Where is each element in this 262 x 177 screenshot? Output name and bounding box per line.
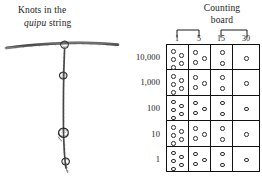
- pebble: [171, 125, 176, 130]
- quipu-caption-line1: Knots in the: [18, 4, 138, 17]
- counting-board-panel: Counting board 1 5 15 30 10,000 1,000 10…: [150, 0, 262, 177]
- pebble: [202, 56, 207, 61]
- pebble: [220, 163, 225, 168]
- pebble: [171, 100, 176, 105]
- quipu-caption: Knots in the quipu string: [18, 4, 138, 29]
- pebble: [244, 56, 249, 61]
- grid-cell-10-1[interactable]: [167, 121, 189, 145]
- pebble: [220, 101, 225, 106]
- pebble: [171, 116, 176, 121]
- pebble: [193, 162, 198, 167]
- pebble: [171, 82, 176, 87]
- grid-row: [167, 121, 259, 146]
- grid-row: [167, 70, 259, 95]
- grid-cell-1-5[interactable]: [189, 147, 211, 171]
- quipu-term: quipu: [24, 18, 46, 28]
- grid-row: [167, 147, 259, 171]
- pebble: [244, 158, 249, 163]
- quipu-caption-line2-rest: string: [46, 18, 71, 28]
- grid-cell-10-30[interactable]: [233, 121, 259, 145]
- pebble: [171, 159, 176, 164]
- row-header-10: 10: [112, 121, 164, 147]
- pebble: [179, 112, 184, 117]
- grid-cell-10000-15[interactable]: [211, 45, 233, 69]
- grid-cell-10000-5[interactable]: [189, 45, 211, 69]
- grid-cell-100-5[interactable]: [189, 96, 211, 120]
- pebble: [171, 167, 176, 172]
- pebble: [193, 85, 198, 90]
- row-header-labels: 10,000 1,000 100 10 1: [112, 44, 164, 172]
- pebble: [193, 75, 198, 80]
- grid-cell-10000-1[interactable]: [167, 45, 189, 69]
- quipu-pendant-string: [63, 48, 68, 168]
- pebble: [171, 74, 176, 79]
- row-header-100: 100: [112, 95, 164, 121]
- pebble: [179, 53, 184, 58]
- quipu-caption-line2: quipu string: [18, 17, 138, 30]
- pebble: [202, 107, 207, 112]
- pebble: [179, 163, 184, 168]
- pebble: [193, 136, 198, 141]
- grid-row: [167, 96, 259, 121]
- grid-cell-1000-15[interactable]: [211, 70, 233, 94]
- pebble: [244, 107, 249, 112]
- pebble: [193, 50, 198, 55]
- pebble: [193, 111, 198, 116]
- pebble: [179, 155, 184, 160]
- pebble: [171, 49, 176, 54]
- counting-board-title-line2: board: [186, 14, 258, 26]
- pebble: [171, 141, 176, 146]
- quipu-counting-board-figure: Knots in the quipu string: [0, 0, 262, 177]
- pebble: [220, 152, 225, 157]
- grid-cell-1-1[interactable]: [167, 147, 189, 171]
- pebble: [220, 112, 225, 117]
- pebble: [171, 108, 176, 113]
- pebble: [220, 137, 225, 142]
- pebble: [193, 126, 198, 131]
- pebble: [171, 57, 176, 62]
- pebble: [179, 86, 184, 91]
- grid-cell-1-30[interactable]: [233, 147, 259, 171]
- counting-board-grid: [166, 44, 260, 172]
- pebble: [193, 101, 198, 106]
- pebble: [202, 158, 207, 163]
- pebble: [244, 132, 249, 137]
- pebble: [179, 78, 184, 83]
- grid-cell-1000-1[interactable]: [167, 70, 189, 94]
- pebble: [202, 81, 207, 86]
- pebble: [193, 152, 198, 157]
- quipu-string-illustration: [2, 32, 122, 177]
- pebble: [171, 65, 176, 70]
- pebble: [220, 50, 225, 55]
- grid-row: [167, 45, 259, 70]
- pebble: [171, 151, 176, 156]
- pebble: [179, 61, 184, 66]
- pebble: [220, 75, 225, 80]
- pebble: [244, 81, 249, 86]
- row-header-10000: 10,000: [112, 44, 164, 70]
- pebble: [193, 60, 198, 65]
- grid-cell-10-15[interactable]: [211, 121, 233, 145]
- pebble: [171, 133, 176, 138]
- grid-cell-10000-30[interactable]: [233, 45, 259, 69]
- counting-board-title: Counting board: [186, 2, 258, 26]
- grid-cell-1000-5[interactable]: [189, 70, 211, 94]
- grid-cell-1000-30[interactable]: [233, 70, 259, 94]
- pebble: [171, 90, 176, 95]
- grid-cell-100-15[interactable]: [211, 96, 233, 120]
- grid-cell-10-5[interactable]: [189, 121, 211, 145]
- pebble: [220, 61, 225, 66]
- pebble: [179, 129, 184, 134]
- grid-cell-1-15[interactable]: [211, 147, 233, 171]
- pebble: [179, 104, 184, 109]
- pebble: [220, 86, 225, 91]
- grid-cell-100-30[interactable]: [233, 96, 259, 120]
- pebble: [202, 132, 207, 137]
- pebble: [220, 126, 225, 131]
- row-header-1: 1: [112, 146, 164, 172]
- pebble: [179, 137, 184, 142]
- grid-cell-100-1[interactable]: [167, 96, 189, 120]
- row-header-1000: 1,000: [112, 70, 164, 96]
- counting-board-title-line1: Counting: [186, 2, 258, 14]
